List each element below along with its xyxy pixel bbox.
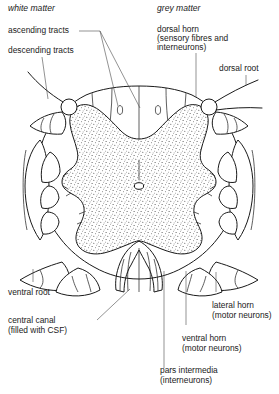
label-ascending-tracts: ascending tracts: [8, 26, 69, 36]
ventral-rootlets-right: [178, 262, 258, 296]
label-descending-tracts: descending tracts: [8, 46, 74, 56]
lateral-rootlets-left: [23, 140, 60, 240]
lateral-rootlets-right: [218, 140, 255, 240]
central-canal: [134, 183, 143, 190]
label-ventral-root: ventral root: [8, 288, 50, 298]
heading-white-matter: white matter: [8, 4, 55, 14]
label-dorsal-root: dorsal root: [219, 64, 259, 74]
heading-grey-matter: grey matter: [157, 4, 200, 14]
spinal-cord-diagram: white matter grey matter ascending tract…: [0, 0, 279, 394]
